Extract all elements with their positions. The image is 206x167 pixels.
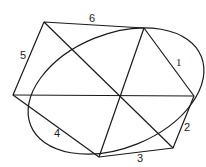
- inscribed-ellipse: [9, 4, 206, 167]
- side-label-6: 6: [89, 12, 95, 24]
- diagonal-f-c: [13, 95, 194, 96]
- side-label-3: 3: [137, 152, 143, 164]
- diagonal-b-e: [99, 28, 144, 157]
- circumscribed-hexagon: [13, 22, 194, 157]
- side-label-2: 2: [184, 121, 190, 133]
- brianchon-diagram: 123456: [0, 0, 206, 167]
- side-label-4: 4: [54, 127, 60, 139]
- side-label-5: 5: [20, 49, 26, 61]
- side-label-1: 1: [176, 56, 182, 68]
- diagonals: [13, 22, 194, 157]
